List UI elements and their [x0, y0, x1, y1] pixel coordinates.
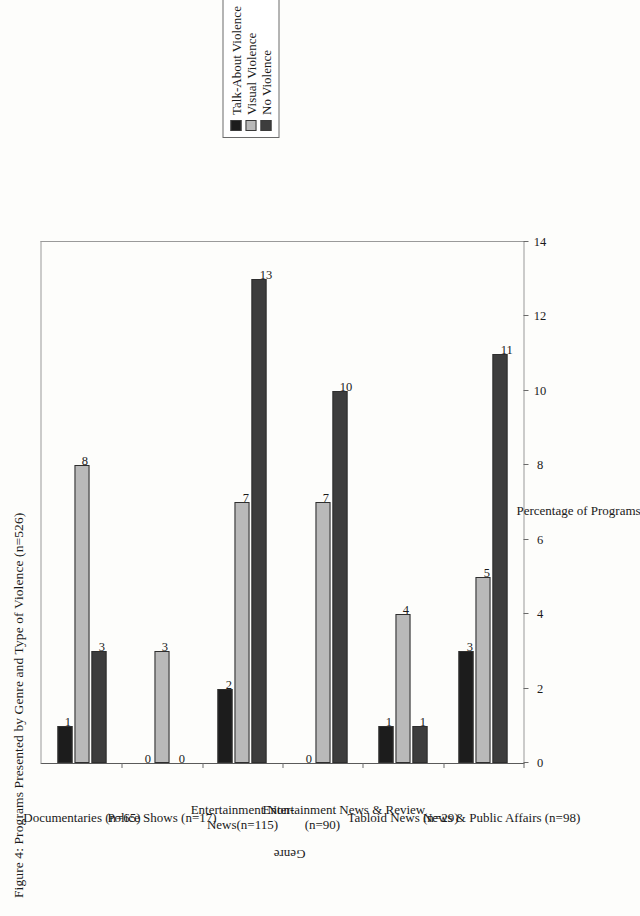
value-tick-label: 10: [533, 383, 546, 398]
bar-value-label: 3: [162, 641, 168, 654]
bar-group: 3511: [443, 242, 523, 763]
bar-value-label: 11: [500, 343, 512, 356]
percentage-axis-title: Percentage of Programs: [516, 503, 640, 519]
value-tick: [523, 241, 528, 242]
figure-title: Figure 4: Programs Presented by Genre an…: [10, 513, 26, 898]
bar-value-label: 7: [322, 492, 328, 505]
value-tick-label: 12: [533, 309, 546, 324]
value-tick-label: 6: [536, 532, 542, 547]
legend-item: Talk-About Violence: [228, 6, 243, 131]
value-tick-label: 2: [536, 681, 542, 696]
value-tick: [523, 762, 528, 763]
bar: [492, 354, 507, 763]
bar-group: 141: [362, 242, 442, 763]
bar-group: 0710: [282, 242, 362, 763]
bar-value-label: 4: [403, 604, 409, 617]
value-tick: [523, 539, 528, 540]
category-tick: [362, 763, 363, 768]
legend-item: Visual Violence: [243, 6, 258, 131]
category-tick: [282, 763, 283, 768]
bar: [154, 651, 169, 763]
bar-value-label: 1: [64, 716, 70, 729]
bar-group: 030: [121, 242, 201, 763]
bar: [315, 503, 330, 764]
bar-value-label: 0: [145, 753, 151, 766]
plot-area: Documentaries (n=65)183Police Shows (n=1…: [40, 241, 524, 764]
category-tick: [523, 763, 524, 768]
bar: [74, 465, 89, 763]
legend-item-label: No Violence: [258, 50, 274, 115]
value-tick: [523, 390, 528, 391]
bar-group: 183: [41, 242, 121, 763]
bar: [251, 279, 266, 763]
bar: [475, 577, 490, 763]
bar-value-label: 5: [483, 567, 489, 580]
value-tick: [523, 688, 528, 689]
legend-swatch-icon: [260, 120, 271, 131]
bar: [395, 614, 410, 763]
bar-value-label: 0: [305, 753, 311, 766]
bar-value-label: 13: [259, 269, 272, 282]
value-tick: [523, 464, 528, 465]
legend-swatch-icon: [230, 120, 241, 131]
category-tick: [202, 763, 203, 768]
bar-value-label: 0: [179, 753, 185, 766]
bar: [378, 726, 393, 763]
bar: [412, 726, 427, 763]
bar: [217, 689, 232, 763]
legend-item: No Violence: [258, 6, 273, 131]
legend-swatch-icon: [245, 120, 256, 131]
value-tick-label: 0: [536, 756, 542, 771]
bar-value-label: 3: [98, 641, 104, 654]
category-label: News & Public Affairs (n=98): [423, 811, 543, 826]
bar: [234, 503, 249, 764]
legend-item-label: Visual Violence: [243, 33, 259, 115]
bar: [91, 651, 106, 763]
value-tick-label: 14: [533, 235, 546, 250]
bar-value-label: 1: [386, 716, 392, 729]
bar-value-label: 8: [81, 455, 87, 468]
value-tick-label: 4: [536, 607, 542, 622]
bar: [57, 726, 72, 763]
bar-value-label: 7: [242, 492, 248, 505]
legend-item-label: Talk-About Violence: [228, 6, 244, 115]
value-tick: [523, 613, 528, 614]
bar: [458, 651, 473, 763]
bar: [332, 391, 347, 763]
bar-value-label: 2: [225, 678, 231, 691]
category-tick: [443, 763, 444, 768]
bar-group: 2713: [202, 242, 282, 763]
bar-value-label: 3: [466, 641, 472, 654]
category-tick: [121, 763, 122, 768]
bar-value-label: 10: [339, 381, 352, 394]
genre-axis-title: Genre: [273, 846, 305, 862]
chart-legend: Talk-About ViolenceVisual ViolenceNo Vio…: [222, 0, 279, 138]
value-tick: [523, 315, 528, 316]
value-tick-label: 8: [536, 458, 542, 473]
bar-value-label: 1: [420, 716, 426, 729]
